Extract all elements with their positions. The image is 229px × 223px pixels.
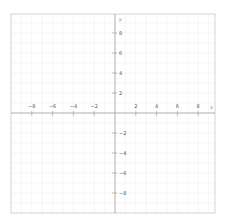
y-tick-label: 6 (119, 50, 122, 56)
x-axis-label: x (209, 104, 213, 110)
coordinate-plane: −8−6−4−224688642−2−4−6−8xy (0, 0, 229, 223)
x-tick-label: 2 (134, 103, 137, 109)
y-axis-label: y (118, 16, 123, 23)
y-tick-label: −8 (119, 190, 126, 196)
x-tick-label: −2 (91, 103, 98, 109)
x-tick-label: 4 (155, 103, 158, 109)
y-tick-label: 8 (119, 30, 122, 36)
y-tick-label: 2 (119, 90, 122, 96)
x-tick-label: 8 (197, 103, 200, 109)
x-tick-label: −4 (70, 103, 77, 109)
y-tick-label: −6 (119, 170, 126, 176)
x-tick-label: −6 (49, 103, 56, 109)
y-tick-label: −2 (119, 130, 126, 136)
x-tick-label: 6 (176, 103, 179, 109)
x-tick-label: −8 (28, 103, 35, 109)
y-tick-label: −4 (119, 150, 126, 156)
y-tick-label: 4 (119, 70, 122, 76)
